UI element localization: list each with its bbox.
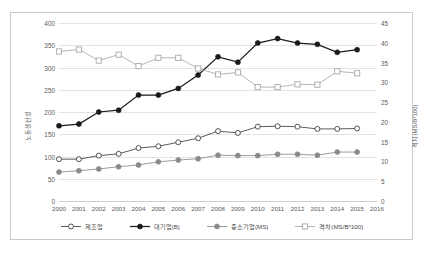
data-point (136, 162, 141, 167)
series-중소기업(MS) (57, 150, 360, 175)
data-point (96, 58, 101, 63)
y-axis-left-title: 노동생산성 (23, 111, 32, 141)
legend-marker-icon (60, 222, 82, 231)
x-axis-tick-label: 2009 (231, 205, 245, 212)
gridline (59, 201, 377, 202)
series-대기업(B) (57, 36, 360, 128)
data-point (156, 159, 161, 164)
y-axis-left-tick-label: 400 (44, 20, 55, 27)
x-axis-tick-label: 2005 (151, 205, 165, 212)
y-axis-left-tick-label: 150 (44, 131, 55, 138)
series-격차(MS/B*100) (56, 47, 359, 90)
data-point (56, 49, 61, 54)
data-point (295, 152, 300, 157)
data-point (275, 152, 280, 157)
x-axis-tick-label: 2016 (370, 205, 384, 212)
data-point (255, 84, 260, 89)
data-point (335, 150, 340, 155)
x-axis-tick-label: 2002 (92, 205, 106, 212)
data-point (136, 64, 141, 69)
y-axis-right-tick-label: 20 (381, 118, 388, 125)
data-point (176, 140, 181, 145)
y-axis-right-title: 격차(MS/B*100) (410, 104, 419, 147)
data-point (57, 157, 62, 162)
y-axis-left-tick-label: 350 (44, 42, 55, 49)
x-axis-tick-label: 2008 (211, 205, 225, 212)
data-point (335, 69, 340, 74)
series-line (59, 50, 357, 88)
data-point (76, 122, 81, 127)
x-axis-tick-label: 2003 (112, 205, 126, 212)
data-point (76, 168, 81, 173)
data-point (136, 93, 141, 98)
data-point (156, 93, 161, 98)
data-point (235, 130, 240, 135)
y-axis-right-tick-label: 0 (381, 198, 385, 205)
y-axis-left-tick-label: 100 (44, 153, 55, 160)
data-point (216, 153, 221, 158)
data-point (216, 129, 221, 134)
data-point (76, 47, 81, 52)
data-point (176, 158, 181, 163)
data-point (176, 55, 181, 60)
legend-marker-icon (294, 222, 316, 231)
data-point (57, 170, 62, 175)
data-point (235, 70, 240, 75)
legend-item[interactable]: 대기업(B) (129, 222, 180, 231)
data-point (116, 108, 121, 113)
data-point (335, 126, 340, 131)
y-axis-right-tick-label: 15 (381, 138, 388, 145)
x-axis-tick-label: 2013 (310, 205, 324, 212)
data-point (355, 150, 360, 155)
data-point (57, 123, 62, 128)
data-point (196, 73, 201, 78)
data-point (275, 36, 280, 41)
legend-item[interactable]: 격차(MS/B*100) (294, 222, 363, 231)
legend-item[interactable]: 중소기업(MS) (206, 222, 268, 231)
data-point (196, 156, 201, 161)
data-point (96, 153, 101, 158)
legend-label: 격차(MS/B*100) (319, 222, 363, 231)
data-point (116, 52, 121, 57)
y-axis-left-tick-label: 300 (44, 64, 55, 71)
x-axis-tick-label: 2004 (132, 205, 146, 212)
x-axis-tick-label: 2000 (52, 205, 66, 212)
data-point (235, 153, 240, 158)
y-axis-left-tick-label: 250 (44, 86, 55, 93)
data-point (255, 124, 260, 129)
data-point (315, 42, 320, 47)
y-axis-left-tick-label: 0 (51, 198, 55, 205)
data-point (275, 124, 280, 129)
data-point (76, 157, 81, 162)
legend-marker-icon (206, 222, 228, 231)
y-axis-right-tick-label: 5 (381, 178, 385, 185)
y-axis-right-tick-label: 25 (381, 99, 388, 106)
data-point (355, 47, 360, 52)
legend-item[interactable]: 제조업 (60, 222, 103, 231)
series-layer (59, 23, 377, 201)
data-point (196, 136, 201, 141)
data-point (255, 153, 260, 158)
x-axis-tick-label: 2001 (72, 205, 86, 212)
data-point (116, 164, 121, 169)
x-axis-tick-label: 2006 (171, 205, 185, 212)
data-point (275, 84, 280, 89)
data-point (196, 66, 201, 71)
data-point (156, 55, 161, 60)
data-point (295, 82, 300, 87)
data-point (216, 54, 221, 59)
series-line (59, 126, 357, 159)
y-axis-left-tick-label: 200 (44, 109, 55, 116)
data-point (235, 60, 240, 65)
series-제조업 (57, 124, 360, 162)
chart-frame: 노동생산성 격차(MS/B*100) 050100150200250300350… (10, 12, 413, 240)
data-point (96, 166, 101, 171)
plot-area: 050100150200250300350400 051015202530354… (59, 23, 377, 201)
data-point (116, 151, 121, 156)
y-axis-left-tick-label: 50 (48, 175, 55, 182)
data-point (156, 144, 161, 149)
data-point (215, 72, 220, 77)
data-point (295, 41, 300, 46)
data-point (136, 146, 141, 151)
data-point (315, 153, 320, 158)
